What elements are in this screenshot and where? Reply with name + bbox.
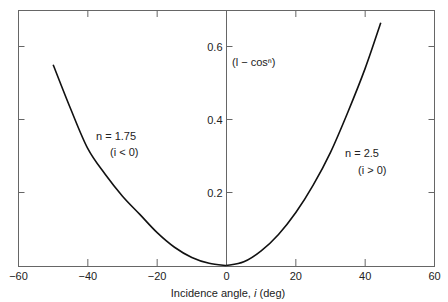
right-curve-condition-label: (i > 0) <box>358 164 386 176</box>
y-axis-label: (l − cosⁿ) <box>232 56 275 68</box>
y-tick-label: 0.6 <box>193 41 223 53</box>
x-axis-label: Incidence angle, i (deg) <box>0 287 448 299</box>
left-curve-n-label: n = 1.75 <box>96 130 136 142</box>
y-tick-label: 0.2 <box>193 187 223 199</box>
left-curve-condition-label: (i < 0) <box>110 146 138 158</box>
x-tick-label: −20 <box>148 270 167 282</box>
x-tick-label: −40 <box>78 270 97 282</box>
x-axis-label-suffix: (deg) <box>256 287 285 299</box>
x-tick-label: 60 <box>428 270 440 282</box>
x-tick-label: 20 <box>290 270 302 282</box>
right-curve-n-label: n = 2.5 <box>345 147 379 159</box>
plot-area <box>0 0 448 302</box>
x-axis-label-prefix: Incidence angle, <box>171 287 254 299</box>
curves <box>53 23 381 266</box>
curve-n-1-75 <box>53 65 226 266</box>
y-tick-label: 0.4 <box>193 114 223 126</box>
x-tick-label: 40 <box>359 270 371 282</box>
x-tick-label: 0 <box>223 270 229 282</box>
x-tick-label: −60 <box>9 270 28 282</box>
